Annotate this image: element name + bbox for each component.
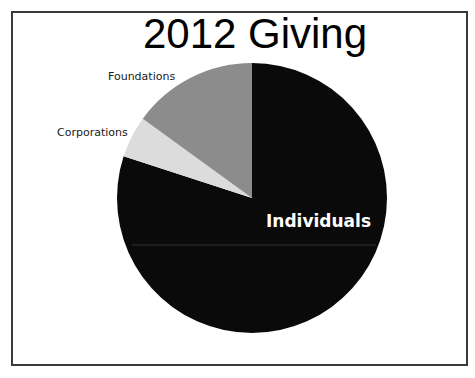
label-individuals: Individuals <box>266 211 371 231</box>
pie-slices <box>117 63 387 333</box>
label-foundations: Foundations <box>108 70 175 83</box>
pie-chart: 2012 Giving Individuals Corporations Fou… <box>0 0 475 378</box>
chart-title: 2012 Giving <box>143 10 367 57</box>
label-corporations: Corporations <box>57 126 128 139</box>
